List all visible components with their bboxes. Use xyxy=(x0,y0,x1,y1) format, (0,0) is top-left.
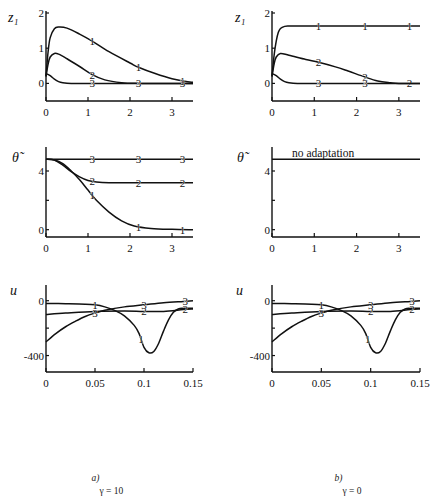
x-tick-label: 0.05 xyxy=(85,377,105,389)
series-label-1: 1 xyxy=(138,333,144,345)
y-tick-label: 0 xyxy=(39,77,45,89)
x-tick-label: 1 xyxy=(85,106,91,118)
x-tick-label: 3 xyxy=(396,242,402,254)
series-label-3: 3 xyxy=(368,299,374,311)
figure-canvas: 0123012z₁1112333 0123012z₁11122233 01230… xyxy=(0,0,439,502)
series-label-3: 3 xyxy=(180,77,186,89)
y-tick-label: 0 xyxy=(265,77,271,89)
y-tick-label: 2 xyxy=(265,7,271,19)
series-label-2: 2 xyxy=(89,175,95,187)
caption-a-title: a) γ = 10 xyxy=(82,458,144,502)
series-label-3: 3 xyxy=(362,77,368,89)
caption-b: b) γ = 0 1 : c₀ = 1 2 : c₀ = 5 3 : c₀ = … xyxy=(325,431,387,502)
x-tick-label: 0 xyxy=(269,377,275,389)
x-tick-label: 3 xyxy=(169,242,175,254)
series-label-3: 3 xyxy=(141,299,147,311)
caption-a-param: γ = 10 xyxy=(100,486,124,496)
series-label-3: 3 xyxy=(182,295,188,307)
y-tick-label: -400 xyxy=(250,350,271,362)
y-axis-label: z₁ xyxy=(234,10,245,25)
series-label-2: 2 xyxy=(136,177,142,189)
x-tick-label: 0.1 xyxy=(364,377,378,389)
series-line-3 xyxy=(272,301,420,342)
y-tick-label: 4 xyxy=(39,165,45,177)
series-label-1: 1 xyxy=(136,61,142,73)
x-tick-label: 0 xyxy=(43,106,49,118)
y-axis-label: θ̃ xyxy=(12,150,25,165)
series-label-2: 2 xyxy=(180,177,186,189)
x-tick-label: 0.05 xyxy=(312,377,332,389)
x-tick-label: 2 xyxy=(354,242,360,254)
y-axis-label: θ̃ xyxy=(237,150,250,165)
x-tick-label: 2 xyxy=(127,242,133,254)
x-tick-label: 1 xyxy=(312,242,318,254)
caption-a: a) γ = 10 1 : c₀ = 1 2 : c₀ = 5 3 : c₀ =… xyxy=(82,431,144,502)
x-tick-label: 2 xyxy=(354,106,360,118)
y-axis-label: z₁ xyxy=(7,10,18,25)
series-label-3: 3 xyxy=(319,307,325,319)
x-tick-label: 0 xyxy=(269,242,275,254)
series-label-3: 3 xyxy=(409,295,415,307)
series-label-3: 3 xyxy=(136,153,142,165)
caption-a-prefix: a) xyxy=(92,473,100,483)
caption-b-title: b) γ = 0 xyxy=(325,458,387,502)
caption-b-prefix: b) xyxy=(335,473,343,483)
y-tick-label: 0 xyxy=(39,224,45,236)
panel-a-theta: 012304θ̃111222333 xyxy=(12,147,193,254)
x-tick-label: 0 xyxy=(43,242,49,254)
x-tick-label: 1 xyxy=(85,242,91,254)
panel-b-z1: 0123012z₁11122233 xyxy=(234,7,420,118)
y-tick-label: 4 xyxy=(265,165,271,177)
panel-b-theta: 012304θ̃no adaptation xyxy=(237,147,420,254)
y-tick-label: 2 xyxy=(39,7,45,19)
x-tick-label: 0 xyxy=(269,106,275,118)
series-line-3 xyxy=(46,301,193,342)
y-tick-label: 1 xyxy=(265,42,271,54)
x-tick-label: 1 xyxy=(312,106,318,118)
series-label-3: 3 xyxy=(316,77,322,89)
x-tick-label: 0.15 xyxy=(410,377,430,389)
x-tick-label: 0.1 xyxy=(137,377,151,389)
series-label-3: 3 xyxy=(89,153,95,165)
series-label-1: 1 xyxy=(136,221,142,233)
y-tick-label: 0 xyxy=(265,295,271,307)
series-line-1 xyxy=(272,26,420,76)
series-label-1: 1 xyxy=(316,20,322,32)
series-line-1 xyxy=(46,27,193,82)
panel-b-u: 00.050.10.150-400u1122333 xyxy=(236,283,430,389)
y-tick-label: 0 xyxy=(39,295,45,307)
series-line-2 xyxy=(272,53,420,83)
series-line-2 xyxy=(46,159,193,183)
series-line-3 xyxy=(272,74,420,84)
annotation-no-adaptation: no adaptation xyxy=(292,147,355,160)
panel-a-u: 00.050.10.150-400u1122333 xyxy=(10,283,203,389)
panel-a-z1: 0123012z₁1112333 xyxy=(7,7,193,118)
x-tick-label: 3 xyxy=(169,106,175,118)
x-tick-label: 0.15 xyxy=(183,377,203,389)
x-tick-label: 3 xyxy=(396,106,402,118)
series-label-3: 3 xyxy=(180,153,186,165)
y-axis-label: u xyxy=(10,283,17,298)
x-tick-label: 2 xyxy=(127,106,133,118)
series-label-1: 1 xyxy=(407,20,413,32)
series-label-2: 2 xyxy=(316,56,322,68)
series-label-1: 1 xyxy=(89,189,95,201)
series-label-1: 1 xyxy=(362,20,368,32)
caption-b-param: γ = 0 xyxy=(343,486,362,496)
series-label-1: 1 xyxy=(180,224,186,236)
y-tick-label: 1 xyxy=(39,42,45,54)
y-tick-label: -400 xyxy=(24,350,45,362)
x-tick-label: 0 xyxy=(43,377,49,389)
series-label-3: 3 xyxy=(92,307,98,319)
series-label-1: 1 xyxy=(89,35,95,47)
y-tick-label: 0 xyxy=(265,224,271,236)
series-label-3: 3 xyxy=(89,77,95,89)
series-line-2 xyxy=(272,309,420,314)
series-line-2 xyxy=(46,309,193,314)
series-label-3: 3 xyxy=(136,77,142,89)
y-axis-label: u xyxy=(236,283,243,298)
series-label-1: 1 xyxy=(365,333,371,345)
